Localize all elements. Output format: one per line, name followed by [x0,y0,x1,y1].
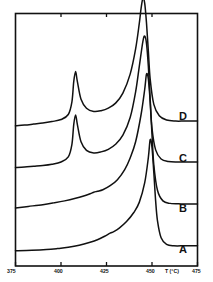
xtick-label-425: 425 [100,268,109,274]
curve-label-b: B [179,202,187,214]
xtick-label-400: 400 [54,268,63,274]
xtick-label-450: 450 [146,268,155,274]
xtick-label-375: 375 [7,268,16,274]
xtick-label-475: 475 [192,268,201,274]
dsc-thermogram-figure: D C B A 375 400 425 450 475 T (°C) [0,0,213,282]
figure-background [0,0,213,282]
curve-label-d: D [179,110,187,122]
plot-canvas [0,0,213,282]
x-axis-title: T (°C) [165,268,179,274]
curve-label-a: A [179,243,187,255]
curve-label-c: C [179,152,187,164]
